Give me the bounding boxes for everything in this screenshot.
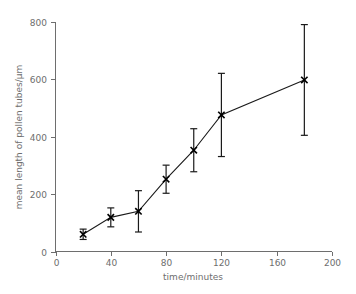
x-tick-label: 200: [324, 258, 341, 268]
y-tick-label: 600: [30, 75, 47, 85]
x-tick-label: 160: [269, 258, 286, 268]
y-tick-label: 800: [30, 18, 47, 28]
chart-background: [0, 0, 356, 294]
y-tick-label: 400: [30, 133, 47, 143]
y-tick-label: 0: [41, 248, 47, 258]
x-axis-title: time/minutes: [163, 272, 223, 282]
y-tick-label: 200: [30, 190, 47, 200]
x-tick-label: 0: [54, 258, 60, 268]
x-tick-label: 80: [161, 258, 173, 268]
x-tick-label: 120: [213, 258, 230, 268]
x-tick-label: 40: [106, 258, 118, 268]
y-axis-title: mean length of pollen tubes/µm: [14, 65, 24, 210]
line-chart-with-error-bars: 0200400600800 04080120160200 time/minute…: [0, 0, 356, 294]
chart-container: 0200400600800 04080120160200 time/minute…: [0, 0, 356, 294]
